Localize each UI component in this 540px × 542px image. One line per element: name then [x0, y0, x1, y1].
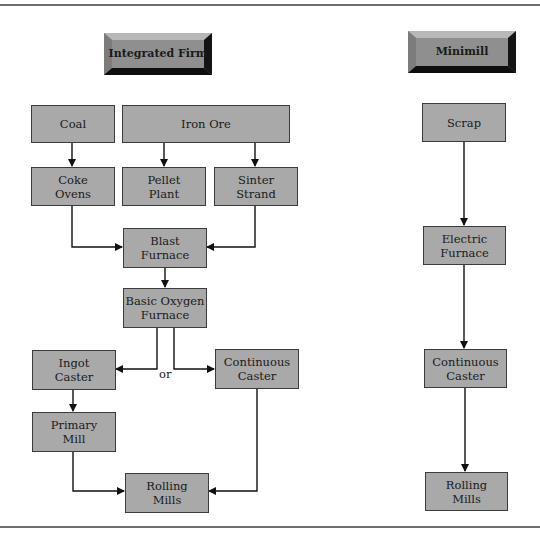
- node-label: Continuous Caster: [224, 355, 290, 383]
- node-continuous-caster: Continuous Caster: [215, 349, 299, 389]
- node-label: Blast Furnace: [141, 234, 189, 262]
- integrated-firm-header: Integrated Firm: [104, 33, 212, 75]
- node-label: Basic Oxygen Furnace: [126, 294, 205, 322]
- node-label: Scrap: [447, 116, 481, 130]
- node-label: Ingot Caster: [55, 356, 93, 384]
- node-coke-ovens: Coke Ovens: [31, 167, 115, 206]
- node-label: Coal: [60, 117, 86, 131]
- minimill-header: Minimill: [408, 31, 516, 73]
- node-label: Pellet Plant: [148, 173, 181, 201]
- node-primary-mill: Primary Mill: [32, 412, 116, 452]
- node-label: Iron Ore: [181, 117, 231, 131]
- integrated-firm-title: Integrated Firm: [109, 47, 208, 60]
- node-scrap: Scrap: [422, 103, 506, 142]
- node-coal: Coal: [31, 105, 115, 143]
- node-iron-ore: Iron Ore: [122, 105, 290, 143]
- node-pellet-plant: Pellet Plant: [122, 167, 206, 206]
- node-basic-oxygen-furnace: Basic Oxygen Furnace: [123, 288, 207, 328]
- node-label: Coke Ovens: [55, 173, 91, 201]
- node-sinter-strand: Sinter Strand: [214, 167, 298, 206]
- node-label: Rolling Mills: [146, 479, 187, 507]
- node-ingot-caster: Ingot Caster: [32, 350, 116, 390]
- node-label: Rolling Mills: [446, 478, 487, 506]
- node-minimill-continuous-caster: Continuous Caster: [424, 349, 507, 388]
- or-label: or: [159, 367, 171, 381]
- node-blast-furnace: Blast Furnace: [123, 228, 207, 268]
- node-label: Sinter Strand: [236, 173, 276, 201]
- node-rolling-mills: Rolling Mills: [125, 473, 209, 513]
- node-minimill-rolling-mills: Rolling Mills: [425, 472, 508, 511]
- node-label: Primary Mill: [51, 418, 98, 446]
- node-electric-furnace: Electric Furnace: [423, 226, 506, 265]
- minimill-title: Minimill: [436, 45, 489, 58]
- node-label: Continuous Caster: [432, 355, 498, 383]
- node-label: Electric Furnace: [440, 232, 488, 260]
- connector-arrows: [0, 0, 540, 542]
